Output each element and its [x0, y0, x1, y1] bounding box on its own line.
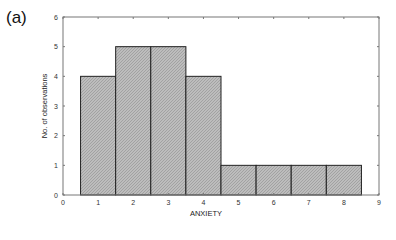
y-tick-label: 1: [54, 162, 58, 169]
x-tick-label: 8: [342, 199, 346, 206]
x-tick-label: 3: [166, 199, 170, 206]
x-tick-label: 5: [237, 199, 241, 206]
histogram-bar: [151, 47, 186, 195]
y-tick-label: 4: [54, 73, 58, 80]
x-tick-label: 1: [96, 199, 100, 206]
y-tick-label: 3: [54, 103, 58, 110]
y-tick-label: 0: [54, 192, 58, 199]
x-tick-label: 6: [272, 199, 276, 206]
histogram-bar: [81, 76, 116, 195]
histogram-bar: [256, 165, 291, 195]
x-tick-label: 0: [61, 199, 65, 206]
histogram-chart: 0123456 0123456789 ANXIETY No. of observ…: [0, 0, 396, 240]
x-tick-label: 4: [201, 199, 205, 206]
histogram-bar: [221, 165, 256, 195]
x-tick-label: 9: [377, 199, 381, 206]
x-axis-title: ANXIETY: [190, 209, 222, 218]
y-tick-label: 5: [54, 43, 58, 50]
histogram-bar: [291, 165, 326, 195]
histogram-bar: [186, 76, 221, 195]
histogram-bar: [326, 165, 361, 195]
x-tick-label: 2: [131, 199, 135, 206]
y-tick-label: 2: [54, 132, 58, 139]
histogram-bar: [116, 47, 151, 195]
x-tick-label: 7: [307, 199, 311, 206]
bars-group: [81, 47, 362, 195]
y-tick-label: 6: [54, 14, 58, 21]
y-axis-title: No. of observations: [40, 73, 49, 138]
